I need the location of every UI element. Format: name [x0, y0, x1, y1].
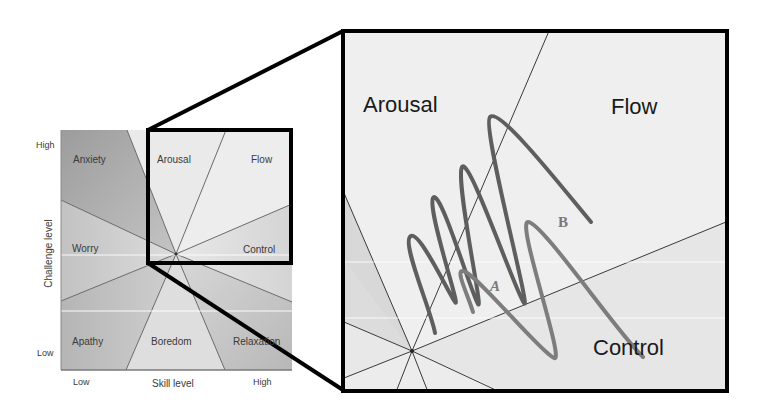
label-boredom: Boredom [151, 336, 192, 347]
x-tick-low: Low [73, 377, 90, 387]
label-arousal-zoom: Arousal [363, 92, 438, 118]
y-axis-label: Challenge level [43, 209, 54, 299]
label-control-zoom: Control [593, 335, 664, 361]
connector-top [148, 31, 343, 130]
label-flow-zoom: Flow [611, 94, 657, 120]
label-relaxation: Relaxation [233, 336, 280, 347]
label-worry: Worry [72, 243, 98, 254]
label-curve-b: B [558, 214, 568, 231]
y-tick-low: Low [37, 348, 54, 358]
label-curve-a: A [490, 278, 500, 295]
x-axis-label: Skill level [152, 378, 194, 389]
label-flow-small: Flow [251, 154, 272, 165]
zoom-panel [344, 31, 726, 392]
x-tick-high: High [253, 377, 272, 387]
label-control-small: Control [243, 244, 275, 255]
label-apathy: Apathy [72, 336, 103, 347]
label-anxiety: Anxiety [73, 154, 106, 165]
label-arousal-small: Arousal [157, 154, 191, 165]
y-tick-high: High [36, 140, 55, 150]
